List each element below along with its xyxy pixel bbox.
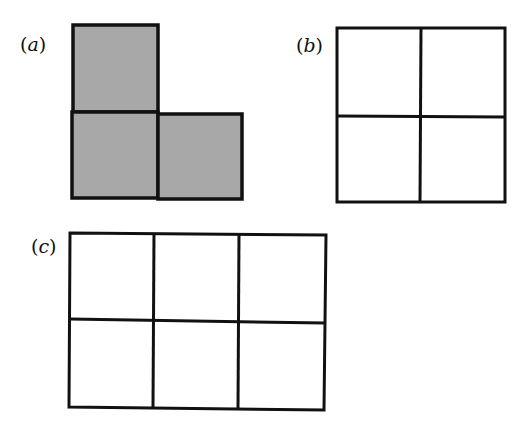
panel-c-grid: [69, 233, 326, 410]
tromino-cell-bottom-right: [158, 114, 242, 199]
panel-b-grid: [337, 28, 505, 202]
tromino-cell-bottom-left: [72, 112, 158, 198]
tromino-cell-top: [73, 25, 158, 112]
figure-canvas: [0, 0, 529, 431]
panel-a-tromino: [72, 25, 242, 199]
